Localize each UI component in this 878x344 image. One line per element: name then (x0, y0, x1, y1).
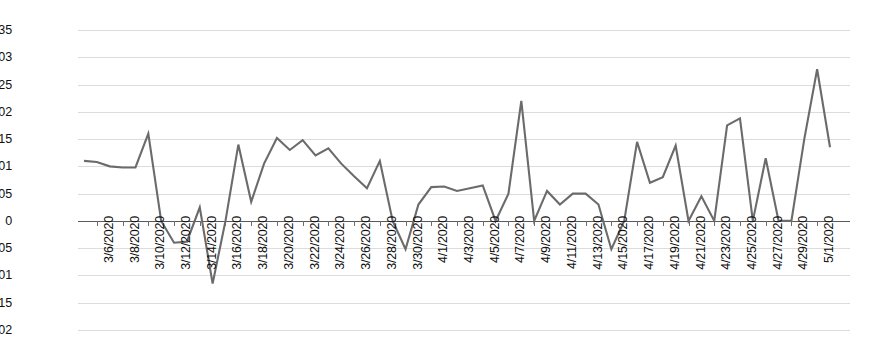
x-axis-tick-label: 4/21/2020 (694, 216, 708, 270)
x-axis-tick-label: 3/26/2020 (359, 216, 373, 270)
x-axis-tick-label: 4/5/2020 (488, 216, 502, 263)
y-axis-tick-label: 0.035 (0, 23, 12, 37)
line-chart: 0.0350.030.0250.020.0150.010.0050-0.005-… (0, 0, 878, 344)
x-axis-tick-label: 3/16/2020 (230, 216, 244, 270)
x-axis-tick-label: 3/12/2020 (179, 216, 193, 270)
y-axis-tick-label: -0.02 (0, 323, 12, 337)
y-axis-tick-label: -0.005 (0, 241, 12, 255)
y-axis-tick-label: 0 (5, 214, 12, 228)
y-axis-tick-label: 0.03 (0, 50, 12, 64)
x-axis-tick-label: 4/11/2020 (565, 216, 579, 269)
x-axis-tick-label: 4/9/2020 (539, 216, 553, 263)
x-axis-tick-label: 4/3/2020 (462, 216, 476, 263)
x-axis-tick-label: 3/20/2020 (282, 216, 296, 270)
y-axis-tick-label: 0.01 (0, 159, 12, 173)
x-axis-tick-label: 4/19/2020 (668, 216, 682, 270)
x-axis-tick-label: 3/14/2020 (205, 216, 219, 270)
y-axis-tick-label: 0.015 (0, 132, 12, 146)
y-axis-tick-label: -0.01 (0, 268, 12, 282)
x-axis-tick-label: 4/7/2020 (513, 216, 527, 263)
x-axis-labels: 3/6/20203/8/20203/10/20203/12/20203/14/2… (78, 216, 850, 336)
x-axis-tick-label: 3/24/2020 (333, 216, 347, 270)
x-axis-tick-label: 4/15/2020 (616, 216, 630, 270)
x-axis-tick-label: 3/28/2020 (385, 216, 399, 270)
x-axis-tick-label: 3/22/2020 (308, 216, 322, 270)
x-axis-tick-label: 5/1/2020 (822, 216, 836, 263)
x-axis-tick-label: 4/27/2020 (771, 216, 785, 270)
x-axis-tick-label: 4/17/2020 (642, 216, 656, 270)
x-axis-tick-label: 4/1/2020 (436, 216, 450, 263)
x-axis-tick-label: 3/30/2020 (411, 216, 425, 270)
y-axis-tick-label: 0.005 (0, 187, 12, 201)
x-axis-tick-label: 4/29/2020 (796, 216, 810, 270)
x-axis-tick-label: 3/18/2020 (256, 216, 270, 270)
x-axis-tick-label: 4/25/2020 (745, 216, 759, 270)
x-axis-tick-label: 4/13/2020 (591, 216, 605, 270)
y-axis-tick-label: 0.02 (0, 105, 12, 119)
x-axis-tick-label: 4/23/2020 (719, 216, 733, 270)
x-axis-tick-label: 3/10/2020 (153, 216, 167, 270)
y-axis-tick-label: 0.025 (0, 78, 12, 92)
x-axis-tick-label: 3/8/2020 (128, 216, 142, 263)
x-axis-tick-label: 3/6/2020 (102, 216, 116, 263)
y-axis-tick-label: -0.015 (0, 296, 12, 310)
